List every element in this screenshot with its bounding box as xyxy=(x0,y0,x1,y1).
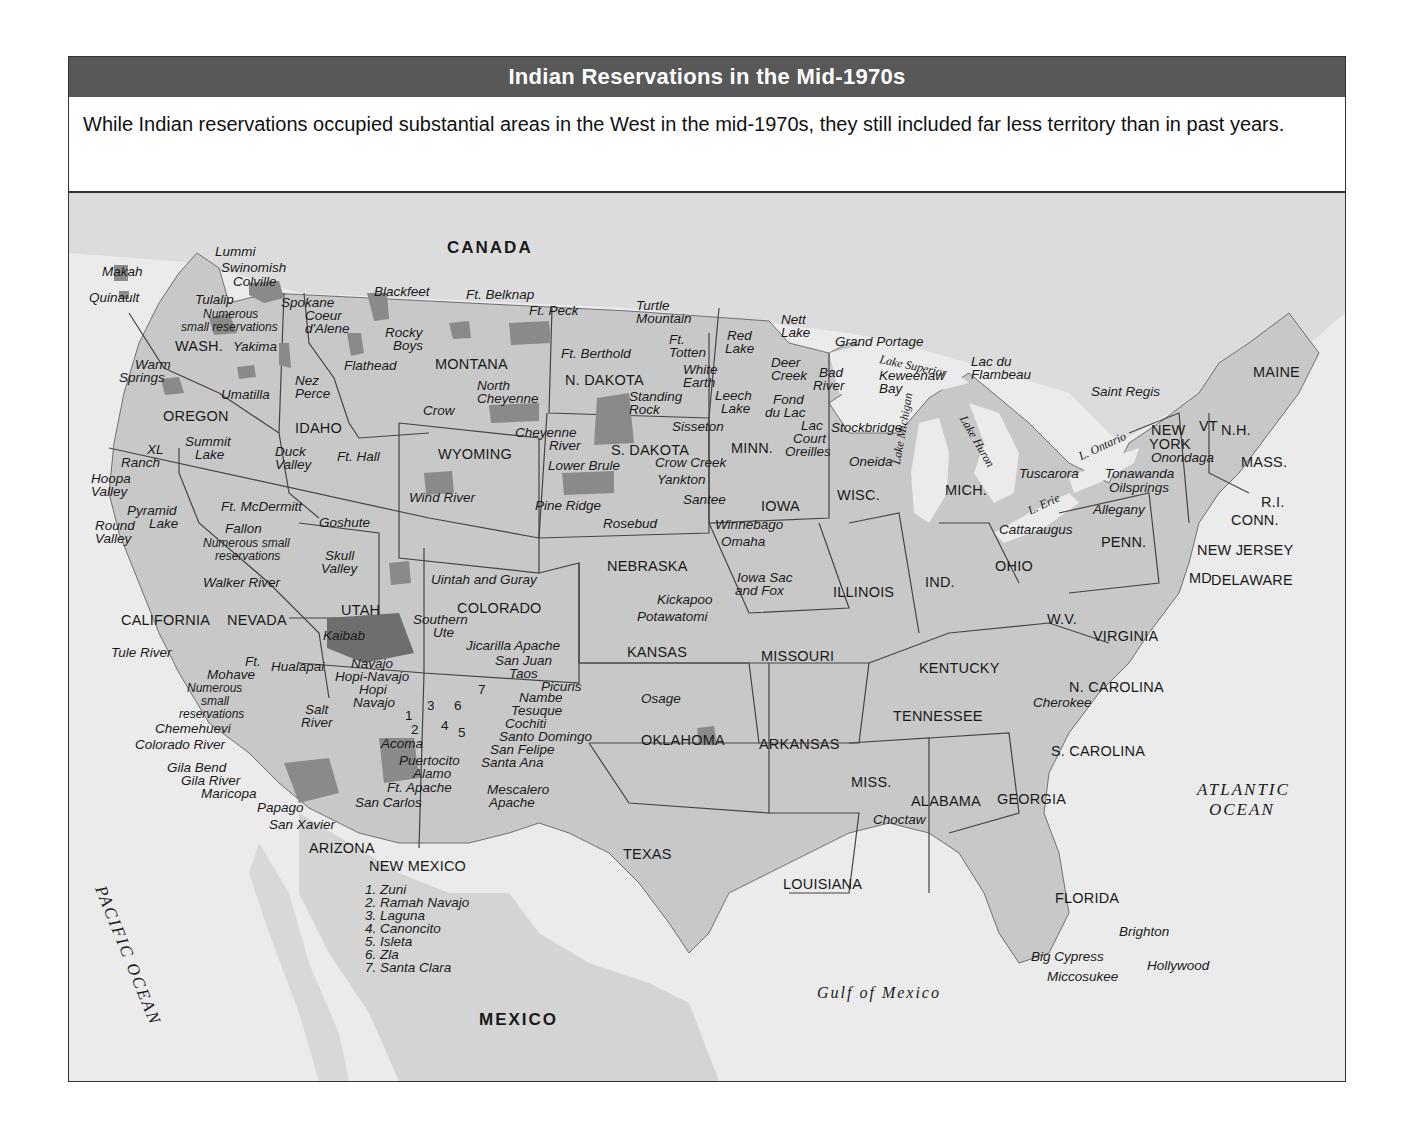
res-label-goshute: Goshute xyxy=(319,516,370,530)
res-label-fond-2: du Lac xyxy=(765,406,806,420)
res-label-leech-2: Lake xyxy=(721,402,750,416)
nm-marker-3: 3 xyxy=(427,699,435,713)
state-label-tennessee: TENNESSEE xyxy=(893,709,983,723)
res-label-santa-ana: Santa Ana xyxy=(481,756,544,770)
res-label-tule-river: Tule River xyxy=(111,646,172,660)
res-label-tonawanda: Tonawanda xyxy=(1105,467,1174,481)
res-label-duck-2: Valley xyxy=(275,458,311,472)
res-label-keweenaw-2: Bay xyxy=(879,382,902,396)
res-label-pine-ridge: Pine Ridge xyxy=(535,499,601,513)
res-label-taos: Taos xyxy=(509,667,538,681)
state-label-virginia: VIRGINIA xyxy=(1093,629,1158,643)
state-label-idaho: IDAHO xyxy=(295,421,342,435)
res-label-crow: Crow xyxy=(423,404,455,418)
res-umatilla xyxy=(237,365,256,379)
state-label-delaware: DELAWARE xyxy=(1211,573,1293,587)
state-label-nh: N.H. xyxy=(1221,423,1251,437)
res-label-oneida: Oneida xyxy=(849,455,893,469)
state-label-kansas: KANSAS xyxy=(627,645,687,659)
state-label-ohio: OHIO xyxy=(995,559,1033,573)
res-label-ft-peck: Ft. Peck xyxy=(529,304,579,318)
state-label-new-mexico: NEW MEXICO xyxy=(369,859,466,873)
res-label-warm-2: Springs xyxy=(119,371,165,385)
res-label-xl-2: Ranch xyxy=(121,456,160,470)
state-label-colorado: COLORADO xyxy=(457,601,542,615)
state-label-arkansas: ARKANSAS xyxy=(759,737,840,751)
res-label-flathead: Flathead xyxy=(344,359,397,373)
state-label-wyoming: WYOMING xyxy=(438,447,512,461)
res-label-numerous-az-2: small xyxy=(201,694,229,708)
state-label-nevada: NEVADA xyxy=(227,613,287,627)
state-label-kentucky: KENTUCKY xyxy=(919,661,1000,675)
ocean-label-gulf: Gulf of Mexico xyxy=(817,983,941,1003)
res-label-makah: Makah xyxy=(102,265,143,279)
res-label-wind-river: Wind River xyxy=(409,491,475,505)
res-label-walker-river: Walker River xyxy=(203,576,280,590)
res-label-numerous-nv-2: reservations xyxy=(215,549,280,563)
state-label-arizona: ARIZONA xyxy=(309,841,375,855)
res-label-numerous-az-1: Numerous xyxy=(187,681,242,695)
state-label-mass: MASS. xyxy=(1241,455,1287,469)
nm-marker-7: 7 xyxy=(478,683,486,697)
res-label-north-cheyenne-2: Cheyenne xyxy=(477,392,539,406)
nm-marker-1: 1 xyxy=(405,709,413,723)
res-crow xyxy=(489,403,539,423)
res-label-cattaraugus: Cattaraugus xyxy=(999,523,1073,537)
res-label-lower-brule: Lower Brule xyxy=(548,459,620,473)
res-label-colville: Colville xyxy=(233,275,277,289)
country-label-canada: CANADA xyxy=(447,241,533,255)
res-label-maricopa: Maricopa xyxy=(201,787,257,801)
ocean-label-atlantic-2: OCEAN xyxy=(1209,800,1275,820)
state-label-oklahoma: OKLAHOMA xyxy=(641,733,725,747)
state-label-mich: MICH. xyxy=(945,483,987,497)
res-label-nez-2: Perce xyxy=(295,387,330,401)
state-label-s-carolina: S. CAROLINA xyxy=(1051,744,1145,758)
res-label-salt-2: River xyxy=(301,716,333,730)
res-label-kickapoo: Kickapoo xyxy=(657,593,713,607)
state-label-minn: MINN. xyxy=(731,441,773,455)
res-label-hollywood: Hollywood xyxy=(1147,959,1209,973)
res-label-blackfeet: Blackfeet xyxy=(374,285,430,299)
res-ft-peck xyxy=(509,321,551,345)
state-label-wash: WASH. xyxy=(175,339,223,353)
res-label-allegany: Allegany xyxy=(1093,503,1145,517)
res-label-tuscarora: Tuscarora xyxy=(1019,467,1079,481)
res-label-lac-du-2: Flambeau xyxy=(971,368,1031,382)
res-label-yankton: Yankton xyxy=(657,473,706,487)
res-label-onondaga: Onondaga xyxy=(1151,451,1214,465)
state-label-alabama: ALABAMA xyxy=(911,794,981,808)
res-label-ft-berthold: Ft. Berthold xyxy=(561,347,631,361)
res-label-stockbridge: Stockbridge xyxy=(831,421,902,435)
state-label-new-york-2: YORK xyxy=(1149,437,1191,451)
res-label-ft-apache: Ft. Apache xyxy=(387,781,452,795)
res-label-navajo-2: Navajo xyxy=(353,696,395,710)
figure-caption: While Indian reservations occupied subst… xyxy=(83,109,1335,139)
res-label-umatilla: Umatilla xyxy=(221,388,270,402)
res-label-numerous-az-3: reservations xyxy=(179,707,244,721)
res-label-choctaw: Choctaw xyxy=(873,813,926,827)
res-label-mescalero-2: Apache xyxy=(489,796,535,810)
res-label-grand-portage: Grand Portage xyxy=(835,335,924,349)
res-label-oilsprings: Oilsprings xyxy=(1109,481,1169,495)
state-label-montana: MONTANA xyxy=(435,357,508,371)
state-label-iowa: IOWA xyxy=(761,499,800,513)
res-label-miccosukee: Miccosukee xyxy=(1047,970,1118,984)
res-label-standing-2: Rock xyxy=(629,403,660,417)
country-label-mexico: MEXICO xyxy=(479,1013,558,1027)
state-label-n-carolina: N. CAROLINA xyxy=(1069,680,1164,694)
res-label-numerous-wa-2: small reservations xyxy=(181,320,278,334)
res-label-fallon: Fallon xyxy=(225,522,262,536)
res-uintah xyxy=(389,561,411,585)
state-label-wv: W.V. xyxy=(1047,612,1077,626)
state-label-illinois: ILLINOIS xyxy=(833,585,894,599)
state-label-missouri: MISSOURI xyxy=(761,649,834,663)
res-label-colorado-river: Colorado River xyxy=(135,738,225,752)
res-label-san-xavier: San Xavier xyxy=(269,818,335,832)
res-label-lummi: Lummi xyxy=(215,245,256,259)
res-label-cheyenne-river-2: River xyxy=(549,439,581,453)
res-label-papago: Papago xyxy=(257,801,304,815)
res-label-ft-mohave-2: Mohave xyxy=(207,668,255,682)
nm-marker-2: 2 xyxy=(411,723,419,737)
state-label-n-dakota: N. DAKOTA xyxy=(565,373,644,387)
res-label-santee: Santee xyxy=(683,493,726,507)
